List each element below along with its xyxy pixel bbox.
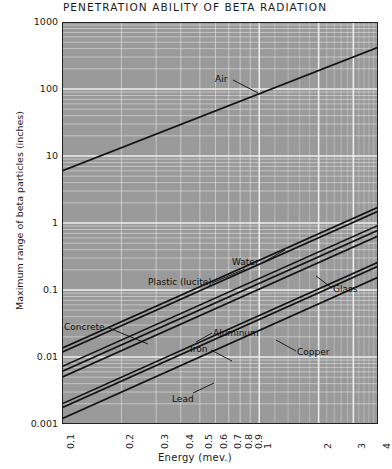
x-tick-label: 0.5 — [204, 434, 214, 449]
annotation-label: Lead — [172, 395, 194, 404]
annotation-label: Iron — [190, 345, 207, 354]
y-tick-label: 1000 — [0, 17, 58, 27]
x-tick-label: 0.2 — [125, 434, 135, 449]
y-tick-label: 100 — [0, 84, 58, 94]
annotation-label: Plastic (lucite) — [148, 278, 212, 287]
x-tick-label: 4 — [382, 443, 392, 449]
x-tick-label: 0.7 — [233, 434, 243, 449]
y-tick-label: 0.001 — [0, 419, 58, 429]
x-tick-label: 0.3 — [160, 434, 170, 449]
x-tick-label: 0.1 — [66, 434, 76, 449]
annotation-label: Glass — [333, 285, 357, 294]
y-tick-label: 10 — [0, 151, 58, 161]
x-tick-label: 1 — [263, 443, 273, 449]
x-tick-label: 2 — [323, 443, 333, 449]
y-tick-label: 0.1 — [0, 285, 58, 295]
x-tick-label: 0.6 — [219, 434, 229, 449]
annotation-label: Air — [215, 75, 227, 84]
annotation-label: Aluminum — [213, 329, 259, 338]
x-axis-label: Energy (mev.) — [0, 452, 390, 463]
x-tick-label: 3 — [357, 443, 367, 449]
y-tick-label: 1 — [0, 218, 58, 228]
annotation-label: Concrete — [64, 323, 105, 332]
x-tick-label: 0.4 — [185, 434, 195, 449]
y-axis-label: Maximum range of beta particles (inches) — [14, 96, 25, 326]
y-tick-label: 0.01 — [0, 352, 58, 362]
annotation-label: Copper — [297, 348, 329, 357]
annotation-label: Water — [232, 258, 259, 267]
